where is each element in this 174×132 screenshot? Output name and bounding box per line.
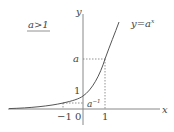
y-label-one: 1 [74, 85, 80, 96]
x-label-one: 1 [102, 111, 108, 122]
exponential-curve [9, 22, 119, 109]
x-label-neg-one: −1 [57, 111, 72, 122]
condition-label: a>1 [28, 19, 49, 30]
x-axis-label: x [162, 104, 168, 115]
y-label-a: a [73, 53, 79, 64]
exponential-diagram: a>1 y=ax y x a 1 a−1 −1 0 1 [0, 0, 174, 132]
y-label-a-inverse: a−1 [87, 98, 100, 109]
y-axis-label: y [75, 6, 82, 17]
function-label: y=ax [130, 17, 155, 29]
x-label-origin: 0 [75, 111, 81, 122]
